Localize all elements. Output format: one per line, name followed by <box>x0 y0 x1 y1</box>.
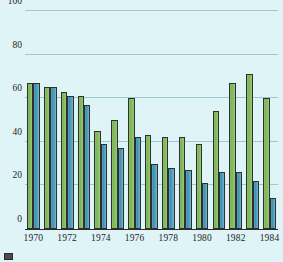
bar-blue-series-1981 <box>219 172 225 229</box>
x-axis-tick-label: 1982 <box>226 233 246 243</box>
x-axis-tick-label: 1970 <box>24 233 44 243</box>
bar-blue-series-1978 <box>168 168 174 229</box>
bar-group <box>261 11 278 229</box>
x-axis-tick-label: 1974 <box>91 233 111 243</box>
y-axis-tick-label: 60 <box>13 83 23 93</box>
y-axis-labels: 020406080100 <box>0 11 23 229</box>
bar-group <box>126 11 143 229</box>
x-axis-tick-label: 1984 <box>260 233 280 243</box>
bar-blue-series-1979 <box>185 170 191 229</box>
x-axis-tick-label: 1978 <box>158 233 178 243</box>
bar-group <box>227 11 244 229</box>
bar-group <box>160 11 177 229</box>
bar-group <box>244 11 261 229</box>
bar-blue-series-1977 <box>151 164 157 229</box>
bar-group <box>177 11 194 229</box>
x-axis-tick-label: 1980 <box>192 233 212 243</box>
y-axis-tick-label: 80 <box>13 40 23 50</box>
x-axis-labels: 19701972197419761978198019821984 <box>25 233 278 247</box>
bar-group <box>143 11 160 229</box>
bar-blue-series-1974 <box>101 144 107 229</box>
bar-blue-series-1970 <box>33 83 39 229</box>
y-axis-tick-label: 40 <box>13 127 23 137</box>
y-axis-tick-label: 20 <box>13 170 23 180</box>
x-axis-line <box>25 229 278 230</box>
plot-area <box>25 11 278 229</box>
x-axis-tick-label: 1976 <box>125 233 145 243</box>
bar-blue-series-1983 <box>253 181 259 229</box>
bar-group <box>42 11 59 229</box>
bar-group <box>59 11 76 229</box>
bar-blue-series-1971 <box>50 87 56 229</box>
bar-blue-series-1976 <box>135 137 141 229</box>
bar-blue-series-1984 <box>270 198 276 229</box>
bar-blue-series-1975 <box>118 148 124 229</box>
y-axis-tick-label: 100 <box>8 0 22 6</box>
bar-group <box>76 11 93 229</box>
bar-chart: 020406080100 197019721974197619781980198… <box>0 0 283 262</box>
bar-group <box>109 11 126 229</box>
bar-blue-series-1982 <box>236 172 242 229</box>
x-axis-tick-label: 1972 <box>57 233 77 243</box>
y-axis-tick-label: 0 <box>17 214 22 224</box>
legend-swatch-icon <box>4 253 13 260</box>
bar-blue-series-1972 <box>67 96 73 229</box>
chart-legend <box>4 251 17 262</box>
bar-group <box>211 11 228 229</box>
bar-blue-series-1973 <box>84 105 90 229</box>
bar-group <box>25 11 42 229</box>
bar-blue-series-1980 <box>202 183 208 229</box>
bar-group <box>194 11 211 229</box>
bar-series-container <box>25 11 278 229</box>
bar-group <box>92 11 109 229</box>
